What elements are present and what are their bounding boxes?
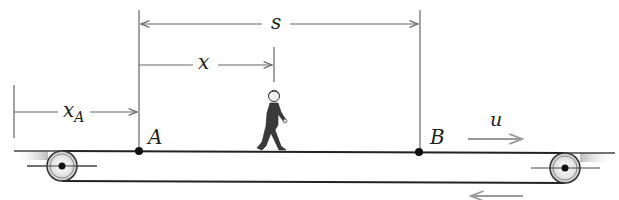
label-xa-subscript: A bbox=[74, 109, 84, 125]
label-belt-speed: u bbox=[490, 110, 502, 129]
label-s: s bbox=[271, 12, 281, 32]
point-a bbox=[135, 147, 143, 155]
label-xa-main: x bbox=[63, 98, 74, 122]
conveyor-diagram bbox=[0, 0, 619, 200]
label-xa: xA bbox=[63, 100, 84, 124]
conveyor-belt bbox=[62, 151, 565, 183]
label-point-a: A bbox=[148, 127, 162, 147]
label-point-b: B bbox=[430, 127, 445, 147]
ground-left bbox=[14, 151, 48, 160]
walking-person-icon bbox=[257, 91, 287, 151]
ground-right bbox=[580, 153, 615, 162]
label-x: x bbox=[198, 52, 209, 72]
point-b bbox=[415, 148, 423, 156]
